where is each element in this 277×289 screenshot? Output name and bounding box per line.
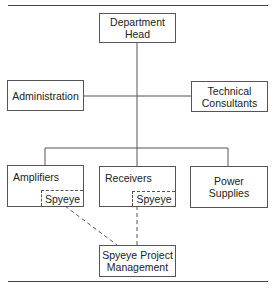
spyeye-amplifiers-label: Spyeye — [45, 193, 80, 205]
amplifiers-label: Amplifiers — [13, 171, 59, 183]
spyeye-project-management-box: Spyeye Project Management — [99, 245, 176, 277]
technical-consultants-box: Technical Consultants — [191, 81, 268, 112]
technical-consultants-label: Technical Consultants — [202, 85, 257, 109]
spyeye-amplifiers-box: Spyeye — [41, 190, 83, 206]
power-supplies-label: Power Supplies — [209, 175, 249, 199]
administration-box: Administration — [7, 80, 84, 111]
administration-label: Administration — [12, 90, 79, 102]
department-head-label: Department Head — [110, 16, 165, 40]
power-supplies-box: Power Supplies — [190, 166, 268, 208]
spyeye-project-management-label: Spyeye Project Management — [102, 249, 173, 273]
department-head-box: Department Head — [99, 13, 176, 43]
spyeye-receivers-label: Spyeye — [136, 193, 171, 205]
receivers-label: Receivers — [105, 172, 152, 184]
spyeye-receivers-box: Spyeye — [132, 191, 175, 206]
